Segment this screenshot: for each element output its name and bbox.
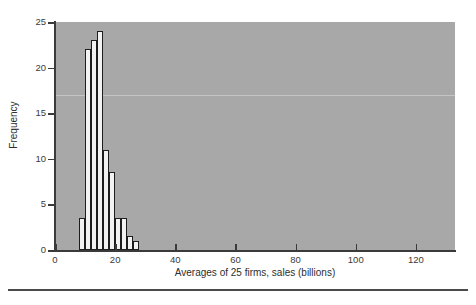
histogram-figure: 0510152025 020406080100120 Frequency Ave… (0, 0, 476, 305)
y-axis-line (54, 21, 56, 251)
y-tick-mark (48, 250, 54, 252)
y-tick-mark (48, 159, 54, 161)
x-tick-label: 0 (35, 255, 75, 265)
x-tick-label: 120 (396, 255, 436, 265)
panel-hairline (55, 95, 455, 96)
y-tick-label: 5 (2, 199, 46, 209)
y-tick-label: 0 (2, 245, 46, 255)
x-tick-mark (175, 244, 177, 251)
y-tick-mark (48, 204, 54, 206)
x-tick-mark (356, 244, 358, 251)
x-tick-label: 60 (215, 255, 255, 265)
x-axis-title: Averages of 25 firms, sales (billions) (55, 268, 455, 278)
x-tick-mark (416, 244, 418, 251)
y-tick-label: 25 (2, 17, 46, 27)
plot-panel (55, 22, 455, 250)
x-tick-mark (115, 244, 117, 251)
x-tick-label: 100 (336, 255, 376, 265)
x-tick-label: 20 (95, 255, 135, 265)
x-tick-mark (235, 244, 237, 251)
x-tick-mark (296, 244, 298, 251)
x-tick-label: 80 (276, 255, 316, 265)
y-axis-title: Frequency (9, 75, 19, 175)
y-tick-label: 20 (2, 63, 46, 73)
x-tick-mark (55, 244, 57, 251)
x-tick-label: 40 (155, 255, 195, 265)
y-tick-mark (48, 68, 54, 70)
y-tick-mark (48, 113, 54, 115)
page-divider-rule (8, 289, 468, 291)
histogram-bar (133, 241, 139, 250)
y-tick-mark (48, 22, 54, 24)
